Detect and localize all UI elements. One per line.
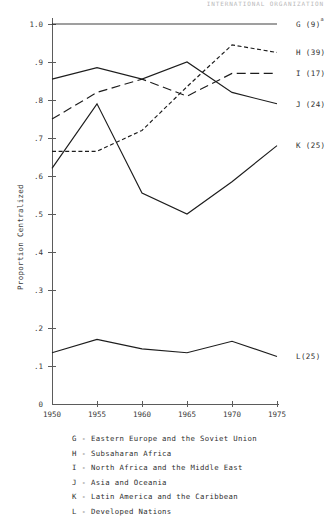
series-label-i: I (17) bbox=[296, 69, 326, 78]
line-chart-plot: 1.0.9.8.7.6.5.4.3.2.10195019551960196519… bbox=[0, 0, 330, 430]
series-labels: G (9)aH (39)I (17)J (24)K (25)L(25) bbox=[296, 16, 326, 361]
legend-entry: J - Asia and Oceania bbox=[72, 476, 322, 491]
axes: 1.0.9.8.7.6.5.4.3.2.10195019551960196519… bbox=[29, 18, 286, 419]
y-axis-title-text: Proportion Centralized bbox=[16, 184, 25, 290]
y-axis-tick-label: .2 bbox=[34, 324, 43, 333]
legend-entry: L - Developed Nations bbox=[72, 505, 322, 520]
y-axis-title: Proportion Centralized bbox=[16, 184, 25, 290]
y-axis-tick-label: .1 bbox=[34, 362, 43, 371]
legend-entry: I - North Africa and the Middle East bbox=[72, 461, 322, 476]
series-line-j bbox=[52, 62, 277, 104]
y-axis-tick-label: .7 bbox=[34, 134, 43, 143]
x-axis-tick-label: 1955 bbox=[88, 410, 106, 419]
series-label-k: K (25) bbox=[296, 141, 326, 150]
y-axis-tick-label: .6 bbox=[34, 172, 44, 181]
x-axis-tick-label: 1960 bbox=[133, 410, 152, 419]
series-label-j: J (24) bbox=[296, 100, 326, 109]
legend-entry: K - Latin America and the Caribbean bbox=[72, 490, 322, 505]
legend-entry: G - Eastern Europe and the Soviet Union bbox=[72, 432, 322, 447]
series-label-h: H (39) bbox=[296, 48, 326, 57]
origin-label: 0 bbox=[38, 400, 43, 409]
series-line-l bbox=[52, 339, 277, 356]
y-axis-tick-label: .8 bbox=[34, 96, 44, 105]
series-label-g: G (9)a bbox=[296, 16, 324, 29]
series-line-i bbox=[52, 73, 277, 119]
series-lines bbox=[52, 24, 277, 357]
x-axis-tick-label: 1950 bbox=[43, 410, 62, 419]
series-line-k bbox=[52, 104, 277, 214]
legend-entry: H - Subsaharan Africa bbox=[72, 447, 322, 462]
y-axis-tick-label: .3 bbox=[34, 286, 43, 295]
y-axis-tick-label: .9 bbox=[34, 58, 43, 67]
y-axis-tick-label: .4 bbox=[34, 248, 44, 257]
figure-container: INTERNATIONAL ORGANIZATION 1.0.9.8.7.6.5… bbox=[0, 0, 330, 525]
y-axis-tick-label: 1.0 bbox=[29, 20, 43, 29]
x-axis-tick-label: 1975 bbox=[268, 410, 286, 419]
x-axis-tick-label: 1965 bbox=[178, 410, 196, 419]
series-line-h bbox=[52, 45, 277, 151]
legend: G - Eastern Europe and the Soviet UnionH… bbox=[72, 432, 322, 520]
y-axis-tick-label: .5 bbox=[34, 210, 43, 219]
series-label-l: L(25) bbox=[296, 352, 321, 361]
x-axis-tick-label: 1970 bbox=[223, 410, 242, 419]
